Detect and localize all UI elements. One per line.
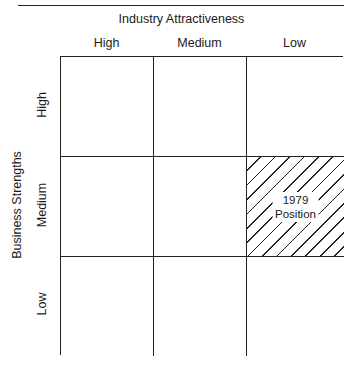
cell-low-medium bbox=[154, 257, 247, 356]
row-label-low: Low bbox=[35, 254, 49, 354]
cell-high-medium bbox=[154, 57, 247, 157]
matrix-grid: 1979 Position bbox=[60, 56, 343, 355]
column-label-low: Low bbox=[246, 36, 343, 50]
position-year: 1979 bbox=[275, 193, 316, 207]
cell-high-low bbox=[247, 57, 344, 157]
column-label-high: High bbox=[60, 36, 153, 50]
cell-low-low bbox=[247, 257, 344, 356]
row-label-medium: Medium bbox=[35, 155, 49, 255]
cell-high-high bbox=[61, 57, 154, 157]
position-text: Position bbox=[275, 207, 316, 221]
top-rule bbox=[18, 5, 344, 6]
column-label-medium: Medium bbox=[153, 36, 246, 50]
cell-medium-medium bbox=[154, 157, 247, 257]
cell-medium-low-highlighted: 1979 Position bbox=[247, 157, 344, 257]
cell-low-high bbox=[61, 257, 154, 356]
x-axis-title: Industry Attractiveness bbox=[0, 12, 363, 26]
cell-medium-high bbox=[61, 157, 154, 257]
position-label: 1979 Position bbox=[272, 192, 319, 222]
row-label-high: High bbox=[35, 55, 49, 155]
y-axis-title: Business Strengths bbox=[10, 105, 24, 305]
